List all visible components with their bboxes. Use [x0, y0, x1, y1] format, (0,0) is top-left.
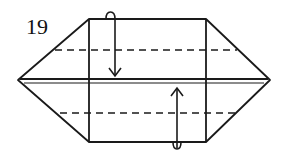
fold-up-arrow-icon [171, 88, 183, 149]
paper-outline [18, 19, 270, 142]
origami-diagram [0, 0, 282, 162]
fold-down-arrow-icon [106, 12, 121, 76]
